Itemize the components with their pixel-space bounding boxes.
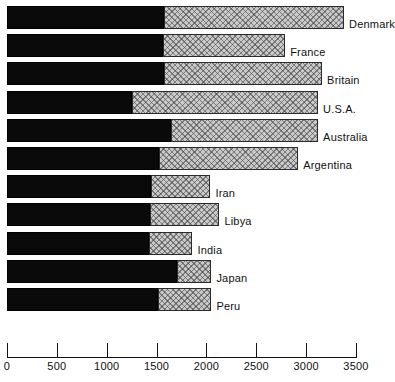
x-axis-tick-label: 1500	[144, 360, 169, 373]
bar-label-peru: Peru	[216, 295, 240, 318]
bar-label-iran: Iran	[215, 182, 235, 205]
x-axis-tick-label: 2000	[194, 360, 219, 373]
x-axis-line	[7, 357, 356, 358]
bar-row	[7, 260, 211, 283]
x-axis-tick	[206, 343, 207, 358]
bar-segment-hatched	[177, 260, 212, 283]
bar-label-libya: Libya	[224, 210, 251, 233]
bar-label-india: India	[197, 239, 222, 262]
bar-segment-dark	[7, 288, 158, 311]
bar-row	[7, 175, 210, 198]
bar-segment-dark	[7, 232, 149, 255]
bar-segment-hatched	[158, 288, 212, 311]
bar-segment-dark	[7, 119, 171, 142]
bar-segment-dark	[7, 175, 151, 198]
bar-label-argentina: Argentina	[303, 154, 352, 177]
plot-area: DenmarkFranceBritainU.S.A.AustraliaArgen…	[0, 0, 387, 340]
bar-segment-dark	[7, 147, 159, 170]
x-axis-tick-label: 2500	[244, 360, 269, 373]
bar-row	[7, 34, 285, 57]
bar-row	[7, 147, 298, 170]
bar-segment-dark	[7, 6, 164, 29]
bar-segment-hatched	[151, 175, 211, 198]
bar-segment-hatched	[171, 119, 319, 142]
bar-segment-hatched	[149, 232, 193, 255]
bar-row	[7, 6, 344, 29]
x-axis-tick-label: 1000	[94, 360, 119, 373]
bar-row	[7, 91, 318, 114]
bar-row	[7, 288, 211, 311]
bar-segment-dark	[7, 62, 164, 85]
bar-segment-dark	[7, 260, 177, 283]
bar-label-britain: Britain	[327, 69, 360, 92]
x-axis-tick	[107, 343, 108, 358]
bar-label-japan: Japan	[216, 267, 247, 290]
bar-row	[7, 232, 192, 255]
bar-segment-dark	[7, 34, 163, 57]
x-axis-tick-label: 500	[47, 360, 66, 373]
bar-row	[7, 203, 219, 226]
bar-segment-dark	[7, 91, 132, 114]
x-axis-tick	[306, 343, 307, 358]
bar-label-france: France	[290, 41, 325, 64]
x-axis-tick	[157, 343, 158, 358]
bar-segment-hatched	[163, 34, 286, 57]
bar-segment-hatched	[164, 6, 344, 29]
bar-segment-hatched	[164, 62, 323, 85]
bar-label-usa: U.S.A.	[323, 98, 356, 121]
bar-label-denmark: Denmark	[349, 13, 395, 36]
bar-row	[7, 119, 318, 142]
bar-segment-hatched	[132, 91, 318, 114]
x-axis-tick-label: 3000	[294, 360, 319, 373]
x-axis-tick	[7, 343, 8, 358]
x-axis: 0500100015002000250030003500	[0, 343, 387, 382]
x-axis-tick-label: 0	[4, 360, 10, 373]
bar-segment-dark	[7, 203, 150, 226]
x-axis-tick	[256, 343, 257, 358]
bar-row	[7, 62, 322, 85]
bar-label-australia: Australia	[323, 126, 368, 149]
x-axis-tick-label: 3500	[343, 360, 368, 373]
x-axis-tick	[57, 343, 58, 358]
x-axis-tick	[356, 343, 357, 358]
bar-segment-hatched	[159, 147, 299, 170]
bar-segment-hatched	[150, 203, 220, 226]
